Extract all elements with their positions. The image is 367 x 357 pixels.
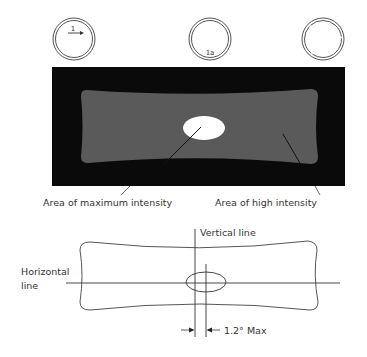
circle-1-label: 1 bbox=[71, 25, 75, 33]
label-vertical-line: Vertical line bbox=[200, 227, 256, 238]
line-diagram: Vertical line Horizontal line 1.2° Max bbox=[21, 227, 340, 337]
arrow-right-icon bbox=[189, 328, 195, 333]
label-tolerance: 1.2° Max bbox=[224, 325, 267, 336]
circle-1: 1 bbox=[53, 18, 95, 60]
label-max-intensity: Area of maximum intensity bbox=[43, 197, 173, 208]
tolerance-arrows bbox=[181, 328, 220, 333]
max-intensity-area bbox=[183, 116, 225, 140]
pointer-line-max-ext bbox=[121, 186, 130, 195]
diagram-canvas: 1 1a Area of maximum intensity Area of h… bbox=[0, 0, 367, 357]
circle-1a-label: 1a bbox=[206, 49, 215, 57]
label-high-intensity: Area of high intensity bbox=[215, 197, 317, 208]
intensity-image: Area of maximum intensity Area of high i… bbox=[43, 67, 345, 208]
label-horizontal-line-1: Horizontal bbox=[21, 266, 70, 277]
outline-shape bbox=[80, 241, 318, 310]
arrow-left-icon bbox=[207, 328, 213, 333]
circle-3 bbox=[302, 18, 344, 60]
circle-1a: 1a bbox=[189, 18, 231, 60]
label-horizontal-line-2: line bbox=[21, 280, 38, 291]
pointer-line-high-ext bbox=[315, 186, 320, 195]
